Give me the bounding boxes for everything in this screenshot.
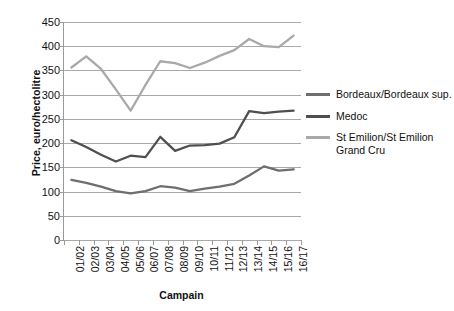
x-tick-label: 07/08: [163, 246, 175, 272]
x-tick-label: 12/13: [237, 246, 249, 272]
x-tick-mark: [64, 240, 65, 245]
series-lines: [64, 22, 301, 240]
x-tick-label: 08/09: [178, 246, 190, 272]
x-tick-mark: [257, 240, 258, 245]
legend-swatch-icon: [306, 93, 330, 96]
y-tick-label: 150: [42, 161, 60, 173]
x-tick-marks: [64, 240, 301, 245]
x-tick-mark: [183, 240, 184, 245]
x-tick-mark: [286, 240, 287, 245]
y-tick-label: 450: [42, 16, 60, 28]
y-tick-label: 300: [42, 89, 60, 101]
x-tick-label: 16/17: [297, 246, 309, 272]
x-tick-label: 02/03: [89, 246, 101, 272]
x-tick-mark: [123, 240, 124, 245]
legend-label: Bordeaux/Bordeaux sup.: [336, 88, 452, 101]
y-tick-label: 400: [42, 40, 60, 52]
x-tick-mark: [153, 240, 154, 245]
chart-legend: Bordeaux/Bordeaux sup.MedocSt Emilion/St…: [306, 88, 452, 165]
series-line: [71, 166, 293, 193]
y-axis-tick-labels: 050100150200250300350400450: [24, 0, 60, 311]
x-tick-mark: [108, 240, 109, 245]
x-tick-mark: [242, 240, 243, 245]
x-tick-label: 10/11: [208, 246, 220, 272]
x-tick-mark: [227, 240, 228, 245]
x-tick-mark: [168, 240, 169, 245]
x-tick-mark: [212, 240, 213, 245]
legend-swatch-icon: [306, 115, 330, 118]
x-tick-label: 05/06: [134, 246, 146, 272]
x-tick-label: 13/14: [252, 246, 264, 272]
y-tick-label: 200: [42, 137, 60, 149]
x-tick-label: 04/05: [119, 246, 131, 272]
series-line: [71, 111, 293, 162]
x-tick-label: 14/15: [267, 246, 279, 272]
x-axis-tick-labels: 01/0202/0303/0404/0505/0606/0707/0808/09…: [63, 246, 300, 290]
series-line: [71, 36, 293, 111]
x-tick-label: 06/07: [148, 246, 160, 272]
x-tick-label: 11/12: [223, 246, 235, 272]
legend-label: Medoc: [336, 110, 368, 123]
y-tick-label: 350: [42, 64, 60, 76]
legend-item[interactable]: St Emilion/St Emilion Grand Cru: [306, 131, 452, 156]
legend-swatch-icon: [306, 136, 330, 139]
legend-label: St Emilion/St Emilion Grand Cru: [336, 131, 452, 156]
plot-area: [63, 22, 301, 240]
x-tick-mark: [94, 240, 95, 245]
x-tick-mark: [301, 240, 302, 245]
legend-item[interactable]: Bordeaux/Bordeaux sup.: [306, 88, 452, 101]
x-tick-label: 01/02: [74, 246, 86, 272]
y-tick-label: 250: [42, 113, 60, 125]
x-tick-mark: [79, 240, 80, 245]
chart-figure: Price, euro/hectolitre 05010015020025030…: [0, 0, 454, 311]
x-tick-label: 03/04: [104, 246, 116, 272]
x-axis-title: Campain: [63, 289, 300, 301]
x-tick-mark: [138, 240, 139, 245]
x-tick-label: 09/10: [193, 246, 205, 272]
x-tick-label: 15/16: [282, 246, 294, 272]
legend-item[interactable]: Medoc: [306, 110, 452, 123]
y-tick-label: 100: [42, 186, 60, 198]
x-tick-mark: [271, 240, 272, 245]
x-tick-mark: [197, 240, 198, 245]
